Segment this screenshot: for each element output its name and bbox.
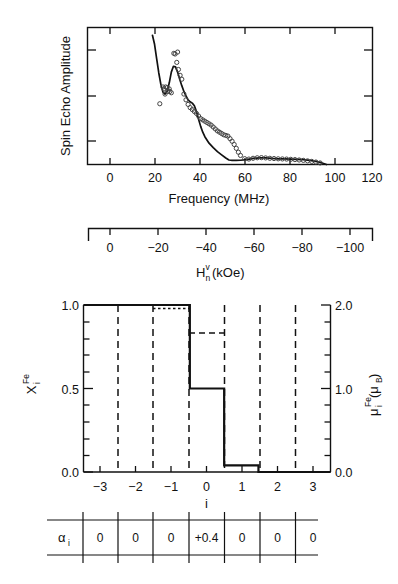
field-axis-bracket bbox=[89, 229, 373, 242]
figure-svg: Spin Echo Amplitude 0 20 40 60 80 100 12… bbox=[0, 0, 398, 584]
alpha-subscript: i bbox=[68, 538, 70, 548]
data-point bbox=[238, 153, 242, 157]
alpha-symbol: α bbox=[58, 530, 66, 545]
left-label-superscript: Fe bbox=[21, 374, 31, 384]
xtick-label: 40 bbox=[193, 171, 207, 185]
bottom-left-tick-labels: 1.0 0.5 0.0 bbox=[62, 299, 79, 480]
top-axis-ticks-top bbox=[110, 28, 335, 35]
alpha-table: α i 0 0 0 +0.4 0 0 0 bbox=[47, 512, 318, 563]
i-tick-label: −2 bbox=[128, 480, 142, 494]
xlabel-unit: (MHz) bbox=[234, 191, 269, 206]
i-tick-label: 3 bbox=[310, 480, 317, 494]
i-tick-label: 1 bbox=[239, 480, 246, 494]
figure-root: Spin Echo Amplitude 0 20 40 60 80 100 12… bbox=[0, 0, 398, 584]
right-ytick-label: 2.0 bbox=[335, 299, 352, 313]
left-ytick-label: 0.5 bbox=[62, 383, 79, 397]
spectrum-measured-points bbox=[158, 50, 323, 165]
table-cell: 0 bbox=[168, 531, 175, 545]
right-ytick-label: 1.0 bbox=[335, 383, 352, 397]
left-ytick-label: 0.0 bbox=[62, 466, 79, 480]
left-label-base: X bbox=[24, 385, 39, 394]
bottom-right-tick-labels: 2.0 1.0 0.0 bbox=[335, 299, 352, 480]
field-tick-label: −80 bbox=[291, 241, 312, 255]
i-tick-label: −1 bbox=[164, 480, 178, 494]
bottom-xtick-labels: −3 −2 −1 0 1 2 3 bbox=[93, 480, 317, 494]
field-tick-label: −100 bbox=[336, 241, 364, 255]
field-axis-tick-labels: 0 −20 −40 −60 −80 −100 bbox=[107, 241, 365, 255]
table-cell: 0 bbox=[239, 531, 246, 545]
field-label-superscript: v bbox=[206, 262, 211, 272]
xtick-label: 60 bbox=[238, 171, 252, 185]
data-point bbox=[175, 60, 179, 64]
field-tick-label: 0 bbox=[107, 241, 114, 255]
top-panel: Spin Echo Amplitude 0 20 40 60 80 100 12… bbox=[58, 28, 382, 207]
table-row-label: α i bbox=[58, 530, 70, 548]
i-tick-label: −3 bbox=[93, 480, 107, 494]
secondary-field-axis: 0 −20 −40 −60 −80 −100 H v n (kOe) bbox=[89, 229, 373, 284]
table-cell: +0.4 bbox=[195, 531, 219, 545]
left-label-subscript: i bbox=[32, 382, 42, 384]
bottom-right-axis-label: μ Fe i (μ B ) bbox=[363, 374, 384, 416]
field-axis-label: H v n (kOe) bbox=[196, 262, 245, 283]
xtick-label: 0 bbox=[107, 171, 114, 185]
top-axis-ticks-left bbox=[88, 50, 97, 141]
i-tick-label: 0 bbox=[203, 480, 210, 494]
right-label-unit-end: ) bbox=[366, 374, 381, 378]
i-tick-label: 2 bbox=[274, 480, 281, 494]
bottom-left-ticks bbox=[84, 305, 94, 472]
bottom-left-axis-label: X Fe i bbox=[21, 374, 42, 395]
top-axis-ticks-right bbox=[364, 50, 373, 141]
table-cell: 0 bbox=[310, 531, 317, 545]
data-point bbox=[158, 102, 162, 106]
top-panel-xtick-labels: 0 20 40 60 80 100 120 bbox=[107, 171, 383, 185]
xtick-label: 80 bbox=[283, 171, 297, 185]
table-cell: 0 bbox=[132, 531, 139, 545]
field-axis-ticks bbox=[110, 229, 350, 236]
xtick-label: 120 bbox=[362, 171, 383, 185]
spectrum-calculated-curve bbox=[152, 35, 326, 164]
field-tick-label: −20 bbox=[147, 241, 168, 255]
bottom-panel-xlabel: i bbox=[205, 496, 208, 511]
field-label-unit: (kOe) bbox=[212, 265, 245, 280]
bottom-right-ticks bbox=[321, 305, 331, 472]
field-label-base: H bbox=[196, 265, 205, 280]
site-profile-step-curve bbox=[84, 305, 331, 472]
field-tick-label: −40 bbox=[195, 241, 216, 255]
table-cell: 0 bbox=[274, 531, 281, 545]
table-row: 0 0 0 +0.4 0 0 0 bbox=[97, 531, 317, 545]
xtick-label: 100 bbox=[325, 171, 346, 185]
top-panel-ylabel: Spin Echo Amplitude bbox=[58, 36, 73, 156]
right-label-unit: (μ bbox=[366, 386, 381, 398]
xlabel-main: Frequency bbox=[169, 191, 231, 206]
xtick-label: 20 bbox=[148, 171, 162, 185]
top-panel-xlabel: Frequency (MHz) bbox=[169, 191, 270, 206]
right-label-base: μ bbox=[366, 409, 381, 417]
bottom-panel: 1.0 0.5 0.0 2.0 1.0 0.0 −3 −2 −1 0 1 2 3… bbox=[21, 299, 384, 511]
left-ytick-label: 1.0 bbox=[62, 299, 79, 313]
field-label-subscript: n bbox=[206, 273, 211, 283]
right-label-subscript: i bbox=[374, 405, 384, 407]
top-plot-frame bbox=[88, 28, 373, 165]
right-ytick-label: 0.0 bbox=[335, 466, 352, 480]
table-cell: 0 bbox=[97, 531, 104, 545]
field-tick-label: −60 bbox=[243, 241, 264, 255]
